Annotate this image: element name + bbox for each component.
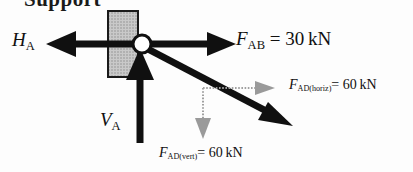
figure-canvas: Support [0, 0, 413, 172]
label-fad-horiz-symbol: F [289, 77, 298, 92]
label-fad-vert-unit: kN [226, 145, 243, 160]
label-ha-subscript: A [26, 39, 35, 53]
label-va: VA [100, 110, 121, 132]
component-arrow-fad-vert [195, 88, 211, 139]
label-va-symbol: V [100, 109, 112, 130]
label-fab: FAB = 30 kN [236, 29, 331, 51]
label-fad-horiz-unit: kN [360, 77, 377, 92]
label-fab-equals: = [270, 28, 281, 49]
label-fab-unit: kN [308, 28, 331, 49]
pin-joint-icon [133, 35, 151, 53]
label-fad-vert-subscript: AD(vert) [168, 152, 198, 161]
label-fad-vert: FAD(vert)= 60 kN [159, 146, 243, 161]
label-fab-subscript: AB [248, 38, 265, 52]
label-fad-vert-symbol: F [159, 145, 168, 160]
label-va-subscript: A [112, 119, 121, 133]
label-fab-value: 30 [285, 28, 304, 49]
label-fab-symbol: F [236, 28, 248, 49]
label-ha: HA [12, 30, 35, 52]
label-fad-horiz-value: 60 [343, 77, 357, 92]
label-fad-horiz-subscript: AD(horiz) [298, 84, 332, 93]
label-ha-symbol: H [12, 29, 26, 50]
label-fad-horiz: FAD(horiz)= 60 kN [289, 78, 377, 93]
label-fad-vert-value: 60 [209, 145, 223, 160]
